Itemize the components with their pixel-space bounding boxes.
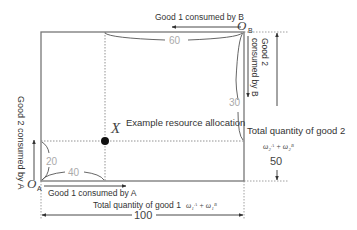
good1-by-b-label: Good 1 consumed by B [155, 12, 244, 22]
total-good2-formula: ω₂ᴬ + ω₂ᴮ [263, 142, 294, 151]
point-label: X [110, 120, 121, 136]
total-good1-formula: ω₁ᴬ + ω₁ᴮ [186, 201, 217, 210]
total-good1-value: 100 [134, 209, 152, 221]
bottom-brace-value: 40 [68, 167, 80, 178]
good2-by-b-label-line1: Good 2 [260, 38, 270, 66]
top-brace-value: 60 [169, 35, 181, 46]
origin-a-label: O [27, 176, 37, 191]
good2-by-a-label: Good 2 consumed by A [16, 96, 26, 190]
allocation-point [101, 137, 109, 145]
right-brace-value: 30 [229, 97, 241, 108]
left-brace-value: 20 [46, 156, 58, 167]
total-good2-value: 50 [270, 155, 282, 167]
good2-by-b-label-line2: consumed by B [250, 38, 260, 97]
good1-by-a-label: Good 1 consumed by A [48, 188, 137, 198]
point-caption: Example resource allocation [126, 117, 245, 128]
origin-a-subscript: A [37, 185, 42, 192]
total-good2-label: Total quantity of good 2 [247, 125, 345, 136]
edgeworth-box-diagram: X Example resource allocation 60 30 20 4… [0, 0, 357, 230]
origin-b-subscript: B [248, 27, 253, 34]
edgeworth-box [41, 32, 244, 181]
